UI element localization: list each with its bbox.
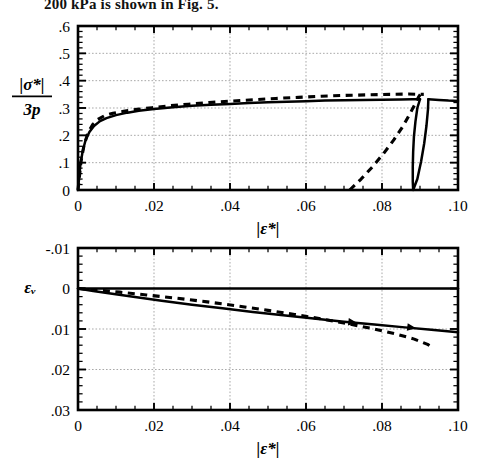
y-tick-label: .2: [58, 127, 70, 144]
x-tick-label: .04: [220, 197, 240, 214]
y-tick-label: .02: [51, 361, 70, 378]
y-tick-label: .03: [51, 402, 71, 419]
series-dashed-loading: [78, 94, 424, 190]
y-axis-label-numerator: |σ*|: [19, 75, 44, 94]
x-tick-label: 0: [74, 417, 82, 434]
y-tick-label: 0: [62, 280, 70, 297]
x-tick-label: .08: [372, 197, 392, 214]
y-axis-label: εᵥ: [24, 278, 36, 297]
x-tick-label: .06: [296, 417, 316, 434]
x-tick-label: 0: [74, 197, 82, 214]
y-tick-label: .01: [51, 321, 70, 338]
y-axis-label-denominator: 3p: [23, 100, 41, 119]
x-tick-label: .02: [144, 417, 163, 434]
y-tick-label: -.01: [45, 240, 70, 257]
x-axis-label: |ε*|: [257, 219, 280, 238]
volumetric-strain-chart: 0.02.04.06.08.10-.010.01.02.03|ε*|εᵥ: [0, 238, 480, 470]
figure-container: 200 kPa is shown in Fig. 5. 0.02.04.06.0…: [0, 0, 480, 470]
y-tick-label: .5: [58, 45, 70, 62]
y-tick-label: 0: [62, 182, 70, 199]
stress-ratio-chart: 0.02.04.06.08.100.1.2.3.4.5.6|ε*||σ*|3p: [0, 14, 480, 244]
x-axis-label: |ε*|: [257, 439, 280, 458]
x-tick-label: .04: [220, 417, 240, 434]
direction-arrow: [407, 323, 417, 332]
x-tick-label: .08: [372, 417, 392, 434]
y-tick-label: .6: [58, 18, 70, 35]
x-tick-label: .10: [448, 417, 468, 434]
x-tick-label: .06: [296, 197, 316, 214]
y-tick-label: .1: [58, 154, 70, 171]
x-tick-label: .10: [448, 197, 468, 214]
y-tick-label: .4: [58, 72, 70, 89]
series-solid-loading: [78, 99, 420, 190]
series-solid-unload-loop: [413, 99, 429, 190]
series-dashed-unload: [350, 94, 421, 190]
y-tick-label: .3: [58, 100, 70, 117]
series-solid-reload-tail: [428, 99, 458, 101]
x-tick-label: .02: [144, 197, 163, 214]
